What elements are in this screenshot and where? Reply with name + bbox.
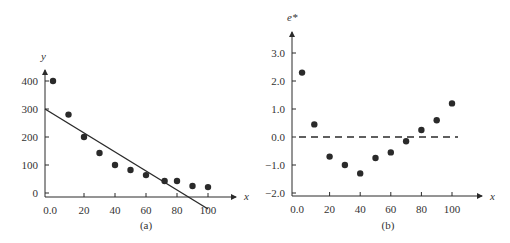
data-points bbox=[50, 78, 211, 191]
x-tick-label: 20 bbox=[324, 203, 336, 215]
y-tick-label: −1.0 bbox=[265, 159, 285, 171]
panel-caption-a: (a) bbox=[140, 219, 153, 232]
data-point bbox=[388, 149, 394, 155]
data-point bbox=[127, 167, 133, 173]
data-point bbox=[112, 162, 118, 168]
x-axis-label: x bbox=[489, 190, 495, 202]
x-tick-label: 80 bbox=[172, 204, 184, 216]
y-tick-label: 3.0 bbox=[271, 47, 285, 59]
x-tick-label: 80 bbox=[416, 203, 428, 215]
y-axis-label: y bbox=[40, 50, 46, 62]
y-tick-label: 0.0 bbox=[271, 131, 285, 143]
data-point bbox=[326, 153, 332, 159]
x-ticks: 0.020406080100 bbox=[290, 192, 461, 215]
y-tick-label: 1.0 bbox=[271, 103, 285, 115]
data-points bbox=[299, 69, 455, 176]
data-point bbox=[357, 170, 363, 176]
panel-caption-b: (b) bbox=[382, 219, 395, 232]
data-point bbox=[65, 111, 71, 117]
y-tick-label: 2.0 bbox=[271, 75, 285, 87]
data-point bbox=[161, 178, 167, 184]
data-point bbox=[449, 100, 455, 106]
y-tick-label: 100 bbox=[22, 159, 39, 171]
x-tick-label: 0.0 bbox=[290, 203, 304, 215]
data-point bbox=[205, 184, 211, 190]
data-point bbox=[372, 155, 378, 161]
y-tick-label: 400 bbox=[22, 75, 39, 87]
data-point bbox=[143, 172, 149, 178]
y-tick-label: −2.0 bbox=[265, 187, 285, 199]
data-point bbox=[96, 150, 102, 156]
x-ticks: 0.020406080100 bbox=[43, 193, 217, 216]
y-axis-label: e* bbox=[287, 11, 298, 23]
data-point bbox=[189, 183, 195, 189]
data-point bbox=[81, 134, 87, 140]
data-point bbox=[50, 78, 56, 84]
x-tick-label: 40 bbox=[355, 203, 367, 215]
x-axis-label: x bbox=[243, 190, 249, 202]
figure: y x 0100200300400 0.020406080100 (a) e* … bbox=[0, 0, 510, 243]
data-point bbox=[174, 178, 180, 184]
x-tick-label: 60 bbox=[141, 204, 153, 216]
regression-line bbox=[45, 109, 208, 209]
x-tick-label: 20 bbox=[79, 204, 91, 216]
chart-panel-b: e* x 3.02.01.00.0−1.0−2.0 0.020406080100… bbox=[265, 11, 495, 232]
x-tick-label: 0.0 bbox=[43, 204, 57, 216]
data-point bbox=[311, 121, 317, 127]
data-point bbox=[342, 162, 348, 168]
data-point bbox=[299, 69, 305, 75]
y-tick-label: 300 bbox=[22, 103, 39, 115]
y-ticks: 3.02.01.00.0−1.0−2.0 bbox=[265, 47, 296, 199]
x-tick-label: 60 bbox=[385, 203, 397, 215]
y-tick-label: 200 bbox=[22, 131, 39, 143]
data-point bbox=[418, 127, 424, 133]
x-tick-label: 40 bbox=[110, 204, 122, 216]
x-tick-label: 100 bbox=[444, 203, 461, 215]
chart-panel-a: y x 0100200300400 0.020406080100 (a) bbox=[22, 50, 250, 232]
y-tick-label: 0 bbox=[33, 187, 39, 199]
data-point bbox=[403, 138, 409, 144]
data-point bbox=[434, 117, 440, 123]
